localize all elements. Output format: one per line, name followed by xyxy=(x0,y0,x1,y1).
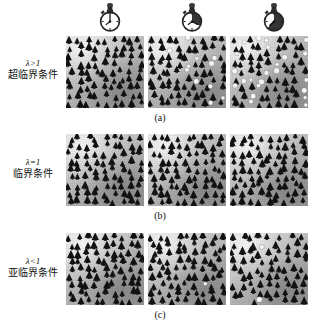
particle-layer xyxy=(148,36,226,108)
panel-subcritical-t1 xyxy=(66,233,144,305)
row-lambda-critical: λ=1 xyxy=(2,157,64,168)
row-label-critical: λ=1临界条件 xyxy=(2,157,64,181)
row-lambda-subcritical: λ<1 xyxy=(2,256,64,267)
particle-layer xyxy=(66,233,144,305)
row-lambda-supercritical: λ>1 xyxy=(2,58,64,69)
row-label-supercritical: λ>1超临界条件 xyxy=(2,58,64,82)
row-condition-supercritical: 超临界条件 xyxy=(2,69,64,82)
particle-layer xyxy=(66,134,144,206)
panel-supercritical-t3 xyxy=(230,36,308,108)
caption-b: (b) xyxy=(0,210,320,221)
panel-supercritical-t1 xyxy=(66,36,144,108)
panel-subcritical-t3 xyxy=(230,233,308,305)
particle-layer xyxy=(148,233,226,305)
chain-reaction-figure: (a) (b) (c) λ>1超临界条件λ=1临界条件λ<1亚临界条件 xyxy=(0,0,320,327)
caption-a: (a) xyxy=(0,112,320,123)
particle-layer xyxy=(230,134,308,206)
particle-layer xyxy=(230,36,308,108)
row-label-subcritical: λ<1亚临界条件 xyxy=(2,256,64,280)
panel-critical-t3 xyxy=(230,134,308,206)
particle-layer xyxy=(148,134,226,206)
panel-subcritical-t2 xyxy=(148,233,226,305)
panel-supercritical-t2 xyxy=(148,36,226,108)
particle-layer xyxy=(230,233,308,305)
stopwatch-t3-icon xyxy=(259,2,289,33)
row-condition-subcritical: 亚临界条件 xyxy=(2,267,64,280)
stopwatch-t2-icon xyxy=(177,2,207,33)
caption-c: (c) xyxy=(0,309,320,320)
panel-critical-t1 xyxy=(66,134,144,206)
particle-layer xyxy=(66,36,144,108)
panel-critical-t2 xyxy=(148,134,226,206)
stopwatch-t1-icon xyxy=(95,2,125,33)
row-condition-critical: 临界条件 xyxy=(2,168,64,181)
stopwatch-row xyxy=(0,0,320,34)
